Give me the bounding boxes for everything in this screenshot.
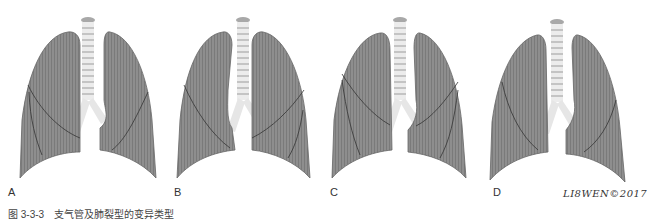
- lung-diagram-c: [320, 0, 480, 190]
- artist-signature: LI8WEN©2017: [563, 188, 647, 199]
- lung-diagram-b: [160, 0, 320, 190]
- panel-label-a: A: [8, 186, 15, 198]
- lung-diagram-d: [480, 0, 642, 190]
- lung-panel-b: B: [160, 0, 320, 200]
- lung-diagram-a: [0, 0, 160, 190]
- lung-panel-a: A: [0, 0, 160, 200]
- panel-label-c: C: [330, 186, 338, 198]
- lung-panel-c: C: [320, 0, 480, 200]
- panel-label-b: B: [174, 186, 181, 198]
- lung-panel-d: D: [480, 0, 640, 200]
- panel-label-d: D: [493, 186, 501, 198]
- figure-caption: 图 3-3-3 支气管及肺裂型的变异类型: [8, 206, 174, 221]
